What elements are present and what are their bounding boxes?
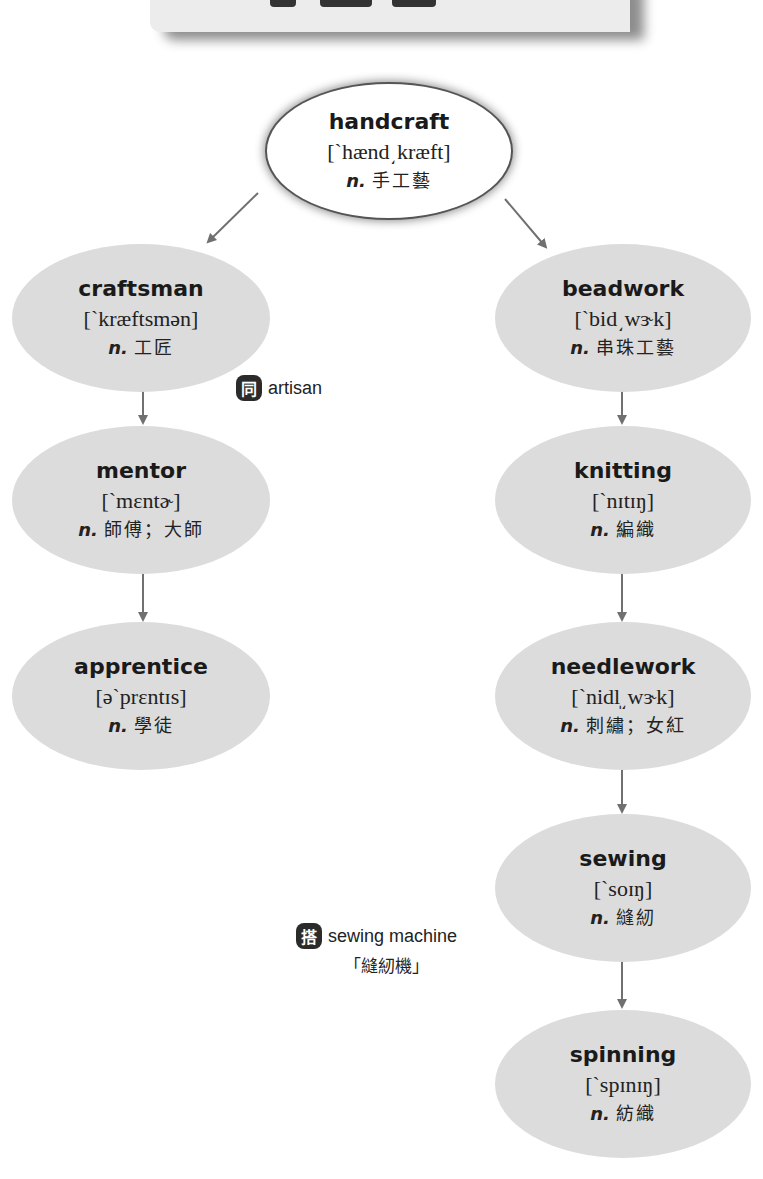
node-word: craftsman bbox=[78, 274, 203, 304]
synonym-badge-icon: 同 bbox=[236, 375, 262, 401]
node-word: needlework bbox=[551, 652, 696, 682]
node-meaning: n.手工藝 bbox=[346, 167, 432, 195]
node-phonetic: [`spɪnɪŋ] bbox=[585, 1070, 661, 1100]
node-meaning: n.編織 bbox=[590, 516, 656, 544]
synonym-text: artisan bbox=[268, 378, 322, 399]
node-needlework: needlework [`nidl̩͵wɝk] n.刺繡；女紅 bbox=[495, 622, 751, 770]
meaning-text: 縫紉 bbox=[616, 907, 656, 928]
part-of-speech: n. bbox=[570, 337, 590, 358]
part-of-speech: n. bbox=[590, 907, 610, 928]
node-handcraft: handcraft [`hænd͵kræft] n.手工藝 bbox=[267, 84, 511, 218]
node-meaning: n.刺繡；女紅 bbox=[560, 712, 686, 740]
node-word: mentor bbox=[96, 456, 186, 486]
node-phonetic: [`nidl̩͵wɝk] bbox=[571, 682, 674, 712]
node-phonetic: [`bid͵wɝk] bbox=[574, 304, 671, 334]
node-spinning: spinning [`spɪnɪŋ] n.紡織 bbox=[495, 1010, 751, 1158]
node-word: sewing bbox=[579, 844, 666, 874]
meaning-text: 手工藝 bbox=[372, 170, 432, 191]
node-phonetic: [`hænd͵kræft] bbox=[327, 137, 450, 167]
node-meaning: n.紡織 bbox=[590, 1100, 656, 1128]
node-word: handcraft bbox=[329, 107, 450, 137]
node-phonetic: [`nɪtɪŋ] bbox=[592, 486, 654, 516]
node-beadwork: beadwork [`bid͵wɝk] n.串珠工藝 bbox=[495, 244, 751, 392]
node-meaning: n.學徒 bbox=[108, 712, 174, 740]
node-word: beadwork bbox=[562, 274, 684, 304]
meaning-text: 編織 bbox=[616, 519, 656, 540]
node-apprentice: apprentice [ə`prɛntɪs] n.學徒 bbox=[12, 622, 270, 770]
arrow-root-to-craftsman bbox=[210, 193, 258, 240]
meaning-text: 師傅；大師 bbox=[104, 519, 204, 540]
synonym-note: 同 artisan bbox=[236, 375, 322, 401]
part-of-speech: n. bbox=[78, 519, 98, 540]
part-of-speech: n. bbox=[590, 519, 610, 540]
collocation-translation: 「縫紉機」 bbox=[344, 952, 429, 977]
node-mentor: mentor [`mɛntɚ] n.師傅；大師 bbox=[12, 426, 270, 574]
part-of-speech: n. bbox=[108, 337, 128, 358]
meaning-text: 工匠 bbox=[134, 337, 174, 358]
node-phonetic: [ə`prɛntɪs] bbox=[95, 682, 186, 712]
node-word: apprentice bbox=[74, 652, 208, 682]
meaning-text: 刺繡；女紅 bbox=[586, 715, 686, 736]
part-of-speech: n. bbox=[108, 715, 128, 736]
collocation-note: 搭 sewing machine bbox=[296, 923, 457, 949]
node-phonetic: [`mɛntɚ] bbox=[101, 486, 180, 516]
node-meaning: n.縫紉 bbox=[590, 904, 656, 932]
meaning-text: 串珠工藝 bbox=[596, 337, 676, 358]
part-of-speech: n. bbox=[346, 170, 366, 191]
collocation-badge-icon: 搭 bbox=[296, 923, 322, 949]
node-knitting: knitting [`nɪtɪŋ] n.編織 bbox=[495, 426, 751, 574]
node-sewing: sewing [`soɪŋ] n.縫紉 bbox=[495, 814, 751, 962]
collocation-text: sewing machine bbox=[328, 926, 457, 947]
arrow-root-to-beadwork bbox=[505, 199, 544, 245]
meaning-text: 紡織 bbox=[616, 1103, 656, 1124]
node-phonetic: [`kræftsmən] bbox=[84, 304, 199, 334]
node-meaning: n.師傅；大師 bbox=[78, 516, 204, 544]
node-meaning: n.工匠 bbox=[108, 334, 174, 362]
node-phonetic: [`soɪŋ] bbox=[594, 874, 653, 904]
part-of-speech: n. bbox=[560, 715, 580, 736]
node-word: spinning bbox=[570, 1040, 677, 1070]
node-meaning: n.串珠工藝 bbox=[570, 334, 676, 362]
node-word: knitting bbox=[574, 456, 672, 486]
meaning-text: 學徒 bbox=[134, 715, 174, 736]
node-craftsman: craftsman [`kræftsmən] n.工匠 bbox=[12, 244, 270, 392]
part-of-speech: n. bbox=[590, 1103, 610, 1124]
